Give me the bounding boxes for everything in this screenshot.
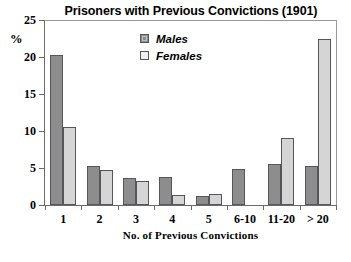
bar-females-5 — [209, 194, 222, 205]
y-axis-tick-label: 25 — [24, 14, 36, 26]
x-axis-tick-mark — [45, 205, 46, 210]
bar-females-1 — [63, 127, 76, 205]
bar-females-1120 — [281, 138, 294, 205]
x-axis-tick-label: 1 — [45, 212, 81, 226]
x-axis-tick-label: 11-20 — [263, 212, 299, 226]
x-axis-tick-label: 6-10 — [227, 212, 263, 226]
bar-males-1 — [50, 55, 63, 205]
chart-title: Prisoners with Previous Convictions (190… — [44, 4, 338, 18]
bar-females-20 — [318, 39, 331, 206]
bar-group — [45, 20, 81, 205]
x-axis-tick-mark — [300, 205, 301, 210]
x-axis-tick-label: 3 — [118, 212, 154, 226]
y-axis-tick-label: 15 — [24, 88, 36, 100]
bar-males-5 — [196, 196, 209, 205]
x-axis-tick-mark — [227, 205, 228, 210]
x-axis-tick-label: 2 — [81, 212, 117, 226]
bar-males-20 — [305, 166, 318, 205]
x-axis-tick-mark — [336, 205, 337, 210]
x-axis-tick-mark — [191, 205, 192, 210]
x-axis-tick-mark — [263, 205, 264, 210]
y-axis-tick-label: 0 — [30, 199, 36, 211]
y-axis-tick-label: 5 — [30, 162, 36, 174]
x-axis-title: No. of Previous Convictions — [44, 229, 337, 241]
legend-item-males: Males — [140, 30, 202, 47]
bar-group — [81, 20, 117, 205]
bar-males-3 — [123, 178, 136, 205]
y-axis: 0510152025 — [0, 20, 44, 206]
bar-group — [300, 20, 336, 205]
bar-males-610 — [232, 169, 245, 205]
x-axis-tick-mark — [118, 205, 119, 210]
bar-females-4 — [172, 195, 185, 205]
bar-females-3 — [136, 181, 149, 205]
bar-males-4 — [159, 177, 172, 205]
x-axis-tick-label: > 20 — [300, 212, 336, 226]
x-axis: 123456-1011-20> 20 — [45, 212, 336, 228]
x-axis-tick-mark — [81, 205, 82, 210]
legend-swatch-icon — [140, 51, 149, 60]
x-axis-tick-mark — [154, 205, 155, 210]
bar-group — [227, 20, 263, 205]
x-axis-tick-label: 5 — [191, 212, 227, 226]
bar-males-1120 — [268, 164, 281, 205]
legend-label: Females — [156, 50, 202, 62]
chart-legend: MalesFemales — [140, 30, 202, 64]
legend-swatch-icon — [140, 34, 149, 43]
bar-females-2 — [100, 170, 113, 205]
y-axis-tick-label: 10 — [24, 125, 36, 137]
bar-group — [263, 20, 299, 205]
legend-item-females: Females — [140, 47, 202, 64]
bar-males-2 — [87, 166, 100, 205]
legend-label: Males — [156, 33, 188, 45]
x-axis-tick-label: 4 — [154, 212, 190, 226]
y-axis-tick-label: 20 — [24, 51, 36, 63]
chart-container: Prisoners with Previous Convictions (190… — [0, 0, 351, 262]
